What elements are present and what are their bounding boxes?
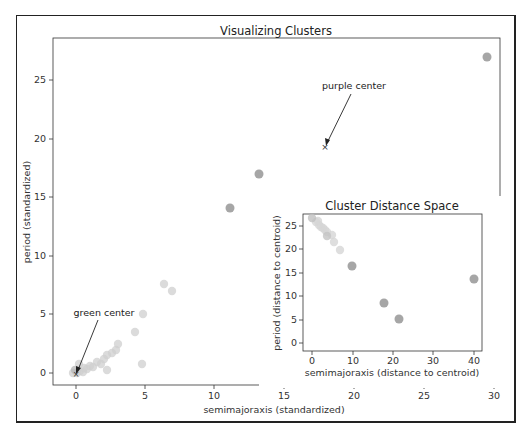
- x-tick-label: 5: [142, 390, 148, 401]
- green-cluster-points: [69, 280, 176, 377]
- inset-x-axis-label: semimajoraxis (distance to centroid): [305, 367, 479, 378]
- x-tick-label: 10: [208, 390, 220, 401]
- inset-x-tick-label: 0: [309, 355, 315, 366]
- purple-center-annotation: purple center ×: [321, 80, 386, 152]
- inset-x-tick-label: 30: [427, 355, 439, 366]
- inset-y-tick-label: 0: [291, 337, 297, 348]
- x-tick-label: 20: [348, 390, 360, 401]
- inset-x-tick-label: 40: [468, 355, 480, 366]
- x-tick-label: 30: [488, 390, 500, 401]
- y-tick-label: 25: [34, 74, 46, 85]
- main-y-ticks: 0 5 10 15 20 25: [34, 74, 53, 378]
- x-tick-label: 0: [73, 390, 79, 401]
- x-tick-label: 15: [278, 390, 290, 401]
- y-tick-label: 5: [40, 308, 46, 319]
- y-tick-label: 20: [34, 133, 46, 144]
- inset-y-tick-label: 15: [285, 267, 297, 278]
- green-center-label: green center: [73, 307, 134, 318]
- inset-y-tick-label: 25: [285, 220, 297, 231]
- inset-y-axis-label: period (distance to centroid): [271, 215, 282, 351]
- purple-cluster-points: [226, 53, 492, 213]
- figure-canvas: Visualizing Clusters 0 5 10 15 20 25 30 …: [0, 0, 530, 438]
- x-marker-icon: ×: [321, 142, 329, 152]
- main-title: Visualizing Clusters: [220, 24, 332, 38]
- y-tick-label: 0: [40, 367, 46, 378]
- y-tick-label: 10: [34, 250, 46, 261]
- inset-title: Cluster Distance Space: [325, 199, 458, 213]
- x-marker-icon: ×: [73, 370, 80, 379]
- inset-y-tick-label: 5: [291, 314, 297, 325]
- y-tick-label: 15: [34, 191, 46, 202]
- main-x-axis-label: semimajoraxis (standardized): [203, 404, 344, 415]
- inset-plot: Cluster Distance Space 0 10 20 30 40 sem…: [259, 196, 505, 388]
- main-y-axis-label: period (standardized): [21, 161, 32, 263]
- x-tick-label: 25: [418, 390, 430, 401]
- purple-center-label: purple center: [322, 80, 386, 91]
- inset-x-tick-label: 20: [387, 355, 399, 366]
- inset-y-tick-label: 10: [285, 290, 297, 301]
- inset-y-tick-label: 20: [285, 243, 297, 254]
- inset-x-tick-label: 10: [347, 355, 359, 366]
